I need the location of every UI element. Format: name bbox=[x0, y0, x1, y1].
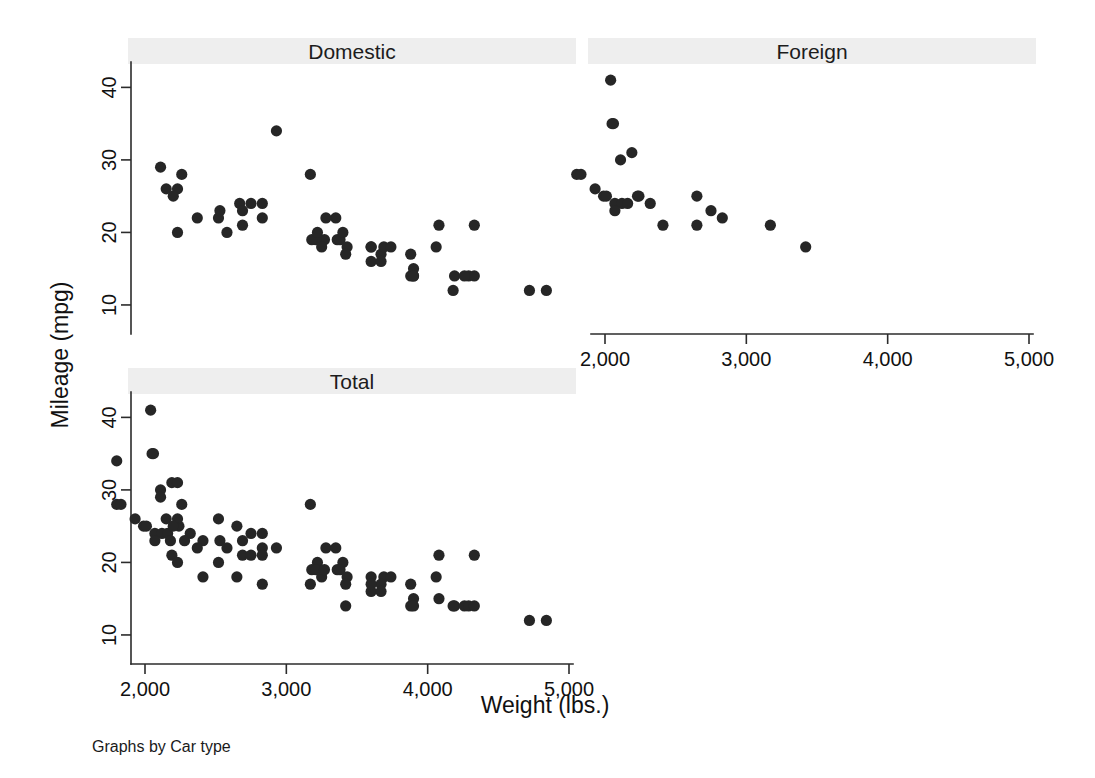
data-point bbox=[141, 521, 152, 532]
data-point bbox=[448, 600, 459, 611]
data-point bbox=[469, 220, 480, 231]
data-point bbox=[221, 227, 232, 238]
y-tick-label: 30 bbox=[98, 479, 120, 501]
data-point bbox=[168, 521, 179, 532]
data-point bbox=[172, 477, 183, 488]
data-point bbox=[245, 528, 256, 539]
data-point bbox=[257, 528, 268, 539]
data-point bbox=[705, 205, 716, 216]
data-point bbox=[237, 220, 248, 231]
data-point bbox=[385, 241, 396, 252]
data-point bbox=[305, 499, 316, 510]
data-point bbox=[330, 542, 341, 553]
data-point bbox=[340, 579, 351, 590]
data-point bbox=[257, 212, 268, 223]
data-point bbox=[405, 249, 416, 260]
data-point bbox=[340, 249, 351, 260]
y-tick-label: 40 bbox=[98, 406, 120, 428]
data-point bbox=[192, 212, 203, 223]
data-point bbox=[165, 535, 176, 546]
data-points-total bbox=[111, 405, 552, 627]
data-point bbox=[330, 212, 341, 223]
data-point bbox=[691, 220, 702, 231]
data-point bbox=[541, 285, 552, 296]
data-point bbox=[213, 557, 224, 568]
data-point bbox=[192, 542, 203, 553]
panel-domestic: Domestic10203040 bbox=[98, 38, 576, 334]
data-point bbox=[214, 205, 225, 216]
data-point bbox=[433, 550, 444, 561]
data-point bbox=[469, 550, 480, 561]
x-tick-label: 2,000 bbox=[120, 678, 170, 700]
x-tick-label: 2,000 bbox=[580, 348, 630, 370]
data-point bbox=[237, 205, 248, 216]
data-point bbox=[337, 227, 348, 238]
data-point bbox=[608, 118, 619, 129]
data-point bbox=[245, 198, 256, 209]
panel-foreign: Foreign2,0003,0004,0005,000 bbox=[571, 38, 1054, 370]
data-point bbox=[645, 198, 656, 209]
data-point bbox=[257, 198, 268, 209]
data-point bbox=[448, 285, 459, 296]
data-point bbox=[717, 212, 728, 223]
data-point bbox=[257, 579, 268, 590]
x-tick-label: 4,000 bbox=[863, 348, 913, 370]
y-tick-label: 30 bbox=[98, 149, 120, 171]
data-point bbox=[172, 557, 183, 568]
data-point bbox=[130, 513, 141, 524]
data-point bbox=[433, 220, 444, 231]
data-point bbox=[155, 162, 166, 173]
data-point bbox=[245, 550, 256, 561]
data-point bbox=[340, 600, 351, 611]
data-point bbox=[449, 270, 460, 281]
panel-total: Total102030402,0003,0004,0005,000 bbox=[98, 368, 594, 700]
data-points-foreign bbox=[571, 75, 811, 253]
data-point bbox=[197, 571, 208, 582]
data-point bbox=[408, 600, 419, 611]
data-point bbox=[469, 600, 480, 611]
y-tick-label: 10 bbox=[98, 294, 120, 316]
data-point bbox=[316, 241, 327, 252]
data-point bbox=[622, 198, 633, 209]
data-point bbox=[231, 571, 242, 582]
data-points-domestic bbox=[155, 125, 552, 296]
data-point bbox=[148, 448, 159, 459]
data-point bbox=[271, 125, 282, 136]
data-point bbox=[405, 579, 416, 590]
x-tick-label: 5,000 bbox=[1004, 348, 1054, 370]
data-point bbox=[257, 550, 268, 561]
data-point bbox=[524, 285, 535, 296]
data-point bbox=[524, 615, 535, 626]
panel-title-total: Total bbox=[330, 370, 374, 393]
data-point bbox=[626, 147, 637, 158]
data-point bbox=[385, 571, 396, 582]
data-point bbox=[161, 183, 172, 194]
data-point bbox=[111, 455, 122, 466]
data-point bbox=[800, 241, 811, 252]
data-point bbox=[115, 499, 126, 510]
data-point bbox=[271, 542, 282, 553]
data-point bbox=[433, 593, 444, 604]
y-axis-title: Mileage (mpg) bbox=[47, 282, 73, 429]
data-point bbox=[312, 227, 323, 238]
y-tick-label: 20 bbox=[98, 221, 120, 243]
data-point bbox=[221, 542, 232, 553]
data-point bbox=[179, 535, 190, 546]
data-point bbox=[408, 270, 419, 281]
data-point bbox=[319, 564, 330, 575]
panel-title-foreign: Foreign bbox=[776, 40, 847, 63]
data-point bbox=[375, 586, 386, 597]
data-point bbox=[366, 579, 377, 590]
data-point bbox=[176, 499, 187, 510]
data-point bbox=[609, 205, 620, 216]
data-point bbox=[691, 191, 702, 202]
data-point bbox=[231, 521, 242, 532]
data-point bbox=[320, 212, 331, 223]
data-point bbox=[605, 75, 616, 86]
data-point bbox=[366, 241, 377, 252]
figure-canvas: Domestic10203040Foreign2,0003,0004,0005,… bbox=[0, 0, 1095, 778]
data-point bbox=[155, 492, 166, 503]
panel-title-domestic: Domestic bbox=[308, 40, 396, 63]
data-point bbox=[765, 220, 776, 231]
data-point bbox=[431, 241, 442, 252]
